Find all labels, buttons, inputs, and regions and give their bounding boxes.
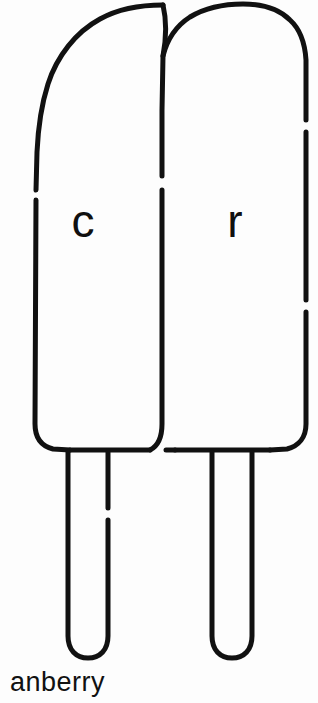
- popsicle-illustration: c r: [0, 0, 318, 703]
- left-popsicle-label: c: [72, 195, 95, 247]
- paper-background: [0, 0, 318, 703]
- right-popsicle-label: r: [227, 195, 242, 247]
- drawing-canvas: c r anberry: [0, 0, 318, 703]
